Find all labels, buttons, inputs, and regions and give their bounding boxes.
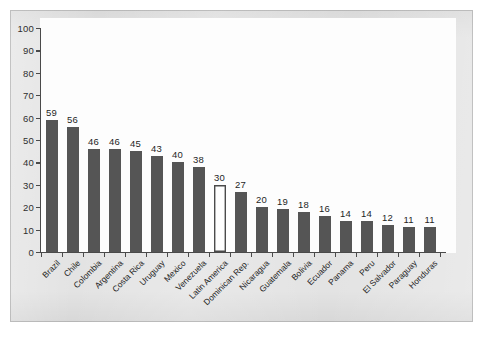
bar: 30	[214, 185, 226, 252]
bar: 14	[361, 221, 373, 252]
category-label: Brazil	[40, 258, 62, 280]
y-axis-label: 100	[18, 23, 34, 34]
x-axis-tick	[41, 252, 42, 257]
y-axis-label: 10	[23, 224, 34, 235]
x-axis-tick	[314, 252, 315, 257]
bar-value-label: 14	[340, 208, 351, 219]
x-axis-tick	[209, 252, 210, 257]
bar: 38	[193, 167, 205, 252]
bar-value-label: 40	[172, 149, 183, 160]
y-axis-label: 40	[23, 157, 34, 168]
bar: 43	[151, 156, 163, 252]
bar-value-label: 11	[424, 214, 434, 225]
bar-value-label: 20	[256, 194, 267, 205]
x-axis-tick	[440, 252, 441, 257]
bar: 11	[403, 227, 415, 252]
y-axis-tick	[36, 230, 40, 231]
bar: 18	[298, 212, 310, 252]
x-axis-tick	[125, 252, 126, 257]
x-axis-tick	[272, 252, 273, 257]
bar-chart: 0102030405060708090100 59564646454340383…	[0, 0, 483, 338]
x-axis-tick	[251, 252, 252, 257]
x-axis-tick	[398, 252, 399, 257]
bar-value-label: 16	[319, 203, 330, 214]
y-axis-label: 20	[23, 202, 34, 213]
bar-value-label: 46	[88, 136, 99, 147]
bar: 14	[340, 221, 352, 252]
bar: 20	[256, 207, 268, 252]
x-axis-line	[40, 252, 446, 253]
y-axis-tick	[36, 162, 40, 163]
bar: 19	[277, 209, 289, 252]
plot-area: 0102030405060708090100 59564646454340383…	[40, 28, 456, 252]
x-axis-tick	[419, 252, 420, 257]
x-axis-tick	[104, 252, 105, 257]
y-axis-label: 70	[23, 90, 34, 101]
y-axis-tick	[36, 28, 40, 29]
bar-value-label: 12	[382, 212, 393, 223]
x-axis-tick	[377, 252, 378, 257]
x-axis-tick	[356, 252, 357, 257]
y-axis-line	[40, 28, 41, 252]
x-axis-tick	[230, 252, 231, 257]
x-axis-tick	[335, 252, 336, 257]
y-axis-tick	[36, 207, 40, 208]
bar: 27	[235, 192, 247, 252]
bar: 12	[382, 225, 394, 252]
x-axis-tick	[188, 252, 189, 257]
bar: 45	[130, 151, 142, 252]
bar-value-label: 38	[193, 154, 204, 165]
bar: 46	[109, 149, 121, 252]
bar-value-label: 18	[298, 199, 309, 210]
x-axis-tick	[167, 252, 168, 257]
bar-value-label: 19	[277, 196, 288, 207]
y-axis-tick	[36, 118, 40, 119]
y-axis-label: 0	[29, 247, 34, 258]
y-axis-label: 60	[23, 112, 34, 123]
bar-value-label: 27	[235, 179, 246, 190]
bar: 40	[172, 162, 184, 252]
bar-value-label: 14	[361, 208, 372, 219]
bar-value-label: 11	[403, 214, 413, 225]
x-axis-tick	[62, 252, 63, 257]
bar-value-label: 46	[109, 136, 120, 147]
bar: 46	[88, 149, 100, 252]
y-axis-label: 80	[23, 67, 34, 78]
y-axis-tick	[36, 73, 40, 74]
bar: 59	[46, 120, 58, 252]
y-axis-label: 90	[23, 45, 34, 56]
bar: 16	[319, 216, 331, 252]
y-axis-tick	[36, 95, 40, 96]
y-axis-label: 50	[23, 135, 34, 146]
bar-value-label: 59	[46, 107, 57, 118]
y-axis-tick	[36, 50, 40, 51]
x-axis-tick	[83, 252, 84, 257]
bar: 56	[67, 127, 79, 252]
y-axis-tick	[36, 140, 40, 141]
y-axis-tick	[36, 252, 40, 253]
y-axis-tick	[36, 185, 40, 186]
bar-value-label: 43	[151, 143, 162, 154]
bar-value-label: 30	[214, 172, 225, 183]
bar-value-label: 56	[67, 114, 78, 125]
x-axis-tick	[293, 252, 294, 257]
y-axis-label: 30	[23, 179, 34, 190]
x-axis-tick	[146, 252, 147, 257]
bar: 11	[424, 227, 436, 252]
bar-value-label: 45	[130, 138, 141, 149]
